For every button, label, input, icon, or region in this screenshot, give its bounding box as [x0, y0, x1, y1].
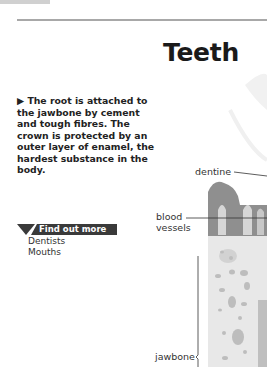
label-dentine: dentine: [195, 166, 231, 177]
label-blood-vessels-line1: blood: [156, 211, 182, 222]
tooth-diagram: [0, 0, 267, 367]
label-jawbone: jawbone: [155, 351, 195, 362]
label-blood-vessels-line2: vessels: [156, 222, 191, 233]
